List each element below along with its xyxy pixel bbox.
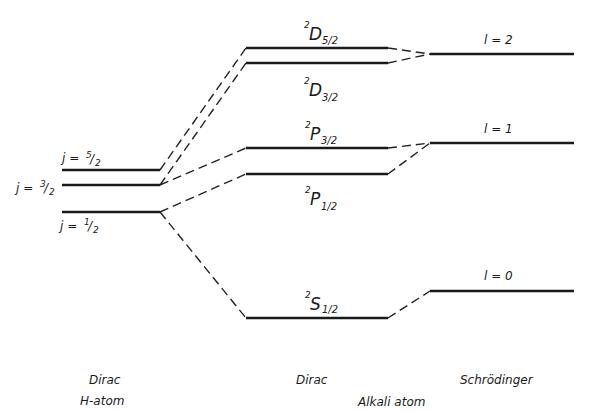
energy-level-diagram: j = 5 / 2 j = 3 / 2 j = 1 / 2 2 D 5/2 2 … (0, 0, 589, 411)
label-2P-1-2: 2 P 1/2 (305, 185, 337, 212)
svg-text:j =: j = (58, 219, 77, 233)
svg-text:P: P (310, 124, 321, 144)
label-l-1: l = 1 (484, 122, 513, 136)
svg-text:3/2: 3/2 (322, 92, 338, 103)
connector-D52-l2 (388, 48, 430, 54)
label-2D-5-2: 2 D 5/2 (304, 20, 338, 46)
svg-text:2: 2 (49, 187, 55, 197)
caption-dirac-h-line2: H-atom (80, 394, 124, 408)
svg-text:2: 2 (95, 158, 101, 168)
svg-text:2: 2 (93, 225, 99, 235)
svg-text:D: D (309, 80, 322, 100)
connector-j12-P12 (160, 174, 246, 212)
label-j-3-2: j = 3 / 2 (14, 179, 55, 197)
label-j-1-2: j = 1 / 2 (58, 217, 99, 235)
caption-dirac-alkali-line1: Dirac (296, 373, 328, 387)
svg-text:P: P (310, 189, 321, 209)
connector-j12-S12 (160, 212, 246, 318)
caption-dirac-h-line1: Dirac (89, 373, 121, 387)
caption-schrodinger: Schrödinger (460, 373, 534, 387)
svg-text:D: D (309, 24, 322, 44)
svg-text:1/2: 1/2 (321, 201, 337, 212)
svg-text:1/2: 1/2 (322, 304, 338, 315)
svg-text:5/2: 5/2 (322, 35, 338, 46)
svg-text:j =: j = (60, 151, 79, 165)
connector-D32-l2 (388, 54, 430, 63)
connector-j52-D52 (160, 48, 246, 170)
label-2D-3-2: 2 D 3/2 (304, 76, 338, 103)
label-2P-3-2: 2 P 3/2 (305, 120, 337, 146)
label-l-0: l = 0 (484, 269, 513, 283)
svg-text:3/2: 3/2 (321, 135, 337, 146)
connector-S12-l0 (388, 291, 430, 318)
label-l-2: l = 2 (484, 33, 513, 47)
label-j-5-2: j = 5 / 2 (60, 150, 101, 168)
svg-text:j =: j = (14, 181, 33, 195)
caption-dirac-alkali-line2: Alkali atom (357, 395, 425, 409)
label-2S-1-2: 2 S 1/2 (305, 290, 338, 315)
svg-text:S: S (310, 294, 321, 314)
